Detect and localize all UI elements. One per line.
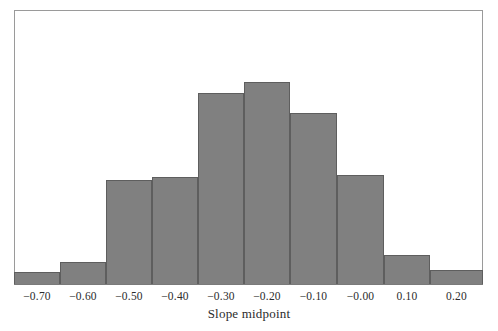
histogram-bar <box>430 270 483 285</box>
histogram-bars <box>14 10 483 285</box>
x-axis-tick-labels: −0.70−0.60−0.50−0.40−0.30−0.20−0.10−0.00… <box>14 288 483 306</box>
x-tick-label: −0.10 <box>290 288 337 304</box>
x-axis-title: Slope midpoint <box>0 306 498 322</box>
histogram-figure: −0.70−0.60−0.50−0.40−0.30−0.20−0.10−0.00… <box>0 0 498 331</box>
histogram-bar <box>106 180 152 285</box>
histogram-bar <box>244 82 290 285</box>
histogram-bar <box>290 113 337 285</box>
x-tick-label: −0.40 <box>152 288 198 304</box>
x-tick-label: 0.20 <box>430 288 483 304</box>
histogram-bar <box>337 175 384 285</box>
x-axis-line <box>14 284 483 285</box>
x-tick-label: −0.60 <box>60 288 106 304</box>
histogram-bar <box>384 255 430 285</box>
histogram-bar <box>152 177 198 285</box>
x-tick-label: 0.10 <box>384 288 430 304</box>
x-tick-label: −0.30 <box>198 288 244 304</box>
x-tick-label: −0.00 <box>337 288 384 304</box>
x-tick-label: −0.70 <box>14 288 60 304</box>
histogram-bar <box>60 262 106 285</box>
x-tick-label: −0.50 <box>106 288 152 304</box>
x-tick-label: −0.20 <box>244 288 290 304</box>
histogram-bar <box>198 93 244 285</box>
